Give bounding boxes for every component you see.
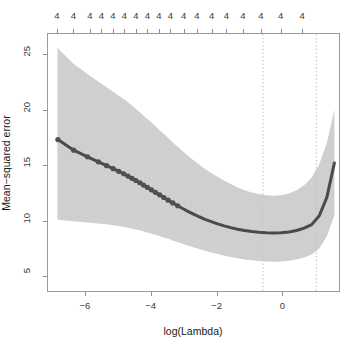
mse-point [71,148,76,153]
top-axis-tick-label: 4 [87,10,92,21]
y-axis-tick-label: 10 [21,213,32,229]
top-axis-tick-label: 4 [258,10,263,21]
top-axis-tick-mark [302,29,303,33]
top-axis-tick-label: 4 [299,10,304,21]
top-axis-tick-label: 4 [133,10,138,21]
top-axis-tick-mark [261,29,262,33]
y-axis-tick-mark [43,276,47,277]
mse-point [175,203,180,208]
top-axis-tick-mark [159,29,160,33]
top-axis-tick-mark [197,29,198,33]
top-axis-tick-label: 4 [110,10,115,21]
y-axis-tick-label: 5 [21,268,32,284]
top-axis-tick-label: 4 [240,10,245,21]
top-axis-tick-mark [147,29,148,33]
top-axis-tick-label: 4 [122,10,127,21]
top-axis-tick-mark [136,29,137,33]
top-axis-tick-label: 4 [145,10,150,21]
mse-point [55,137,60,142]
y-axis-tick-label: 15 [21,157,32,173]
y-axis-tick-mark [43,165,47,166]
top-axis-tick-mark [124,29,125,33]
top-axis-tick-mark [73,29,74,33]
x-axis-label: log(Lambda) [164,325,223,337]
chart-figure: 444444444444444444 −6−4−20 log(Lambda) 5… [0,0,354,341]
x-axis-tick-label: −2 [211,300,222,311]
top-axis-tick-label: 4 [181,10,186,21]
x-axis-tick-mark [282,292,283,296]
top-axis-tick-label: 4 [54,10,59,21]
top-axis-tick-label: 4 [278,10,283,21]
mse-point [157,192,162,197]
mse-point [161,195,166,200]
top-axis-tick-mark [90,29,91,33]
mse-point [166,198,171,203]
mse-point [116,169,121,174]
top-axis-tick-label: 4 [156,10,161,21]
top-axis-tick-label: 4 [194,10,199,21]
mse-point [104,163,109,168]
mse-point [111,166,116,171]
top-axis-tick-mark [170,29,171,33]
x-axis-tick-label: −4 [145,300,156,311]
x-axis-tick-mark [151,292,152,296]
x-axis-tick-label: −6 [79,300,90,311]
plot-canvas [48,34,340,292]
x-axis-tick-mark [217,292,218,296]
top-axis-tick-label: 4 [209,10,214,21]
y-axis-tick-mark [43,221,47,222]
top-axis-tick-label: 4 [224,10,229,21]
x-axis-tick-mark [85,292,86,296]
x-axis-tick-label: 0 [280,300,285,311]
mse-point [85,154,90,159]
mse-point [96,159,101,164]
y-axis-tick-label: 20 [21,102,32,118]
y-axis-label: Mean−squared error [0,115,12,210]
top-axis-tick-mark [281,29,282,33]
top-axis-tick-label: 4 [99,10,104,21]
top-axis-tick-mark [113,29,114,33]
top-axis-tick-label: 4 [71,10,76,21]
y-axis-tick-mark [43,54,47,55]
top-axis-tick-mark [243,29,244,33]
top-axis-tick-mark [184,29,185,33]
top-axis-tick-mark [212,29,213,33]
mse-point [170,200,175,205]
top-axis-tick-label: 4 [168,10,173,21]
top-axis-tick-mark [57,29,58,33]
top-axis-tick-mark [226,29,227,33]
plot-area [47,33,340,292]
y-axis-tick-mark [43,110,47,111]
y-axis-tick-label: 25 [21,46,32,62]
error-band [58,48,335,261]
top-axis-tick-mark [101,29,102,33]
error-band-polygon [58,48,335,261]
